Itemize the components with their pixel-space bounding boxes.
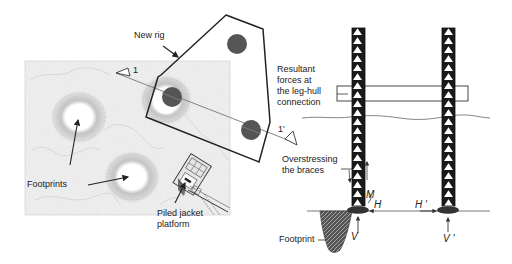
label-overstress-2: the braces	[282, 165, 324, 176]
footprint-crater-2	[102, 149, 162, 205]
label-resultant-3: the leg-hull	[277, 86, 321, 97]
spudcan-right	[437, 206, 459, 214]
spudcan-left	[347, 206, 369, 214]
label-h-prime: H '	[415, 199, 427, 210]
footprint-crater-1	[49, 89, 109, 145]
arrow-overstress-down	[349, 170, 350, 182]
label-piled-jacket-2: platform	[157, 219, 190, 230]
label-new-rig: New rig	[134, 30, 165, 41]
label-resultant-1: Resultant	[277, 64, 315, 75]
rig-leg-left	[352, 28, 365, 206]
water-line	[302, 115, 490, 120]
label-resultant-2: forces at	[277, 75, 312, 86]
elevation-view	[302, 28, 490, 252]
label-overstress-1: Overstressing	[282, 154, 338, 165]
label-piled-jacket-1: Piled jacket	[157, 208, 203, 219]
label-section-end: 1'	[278, 124, 285, 135]
arrow-new-rig	[163, 46, 178, 57]
section-end-triangle-icon	[285, 131, 297, 145]
label-footprint: Footprint	[279, 234, 315, 245]
label-section-start: 1	[133, 65, 138, 76]
diagram-canvas	[0, 0, 512, 264]
label-h: H	[374, 199, 381, 210]
rig-leg-circle-1	[227, 34, 247, 54]
rig-leg-right	[442, 28, 455, 206]
label-v-prime: V '	[443, 233, 454, 244]
label-v: V	[351, 231, 358, 242]
label-resultant-4: connection	[277, 97, 321, 108]
label-footprints: Footprints	[27, 179, 67, 190]
footprint-hole	[320, 211, 352, 252]
